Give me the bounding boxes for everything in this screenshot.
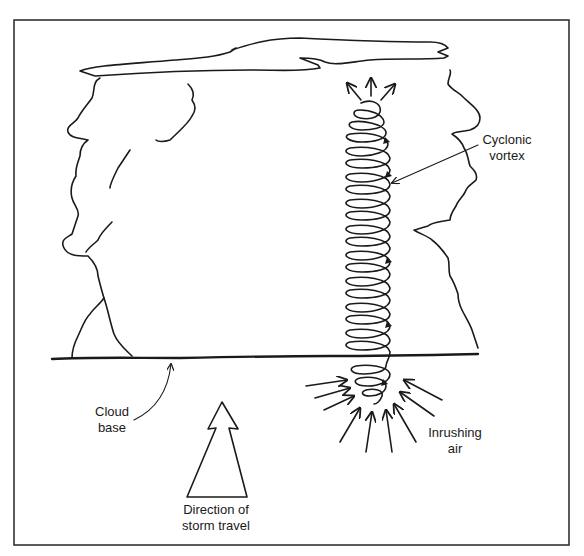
cloud-base-pointer	[134, 364, 171, 420]
cloud-base-label-line2: base	[98, 420, 126, 435]
cloud-inner-detail-1	[156, 84, 195, 142]
outflow-arrows	[347, 78, 395, 100]
cloud-base-label-line1: Cloud	[95, 404, 129, 419]
direction-label-line1: Direction of	[183, 502, 249, 517]
cloud-inner-detail-2	[110, 150, 130, 188]
diagram-canvas: Cyclonic vortex Inrushing air Cloud base…	[0, 0, 584, 556]
direction-arrow-icon	[187, 402, 247, 497]
inrushing-air-label-line2: air	[448, 441, 463, 456]
cloud-left-edge	[63, 78, 104, 358]
cloud-left-inner	[104, 298, 132, 356]
spiral-vortex	[346, 101, 392, 404]
vortex-label-line2: vortex	[489, 148, 525, 163]
inrushing-air-arrows	[306, 380, 442, 452]
vortex-label-line1: Cyclonic	[482, 132, 532, 147]
figure-frame	[14, 20, 569, 545]
inrushing-air-label-line1: Inrushing	[428, 425, 481, 440]
anvil-top	[80, 38, 448, 76]
cloud-base-line	[52, 354, 478, 359]
cloud-right-edge	[414, 70, 480, 348]
vortex-pointer-line	[392, 145, 478, 183]
direction-label-line2: storm travel	[182, 518, 250, 533]
cloud-inner-detail-3	[86, 222, 112, 252]
